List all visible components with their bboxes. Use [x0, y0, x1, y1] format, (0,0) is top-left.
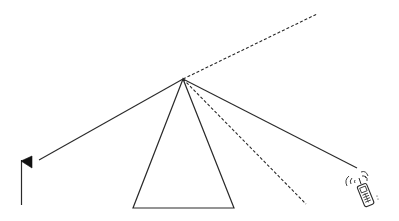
flag-icon [21, 156, 32, 205]
solid-line-to-phone [183, 79, 357, 168]
phone-antenna [359, 178, 361, 184]
diagram-canvas [0, 0, 399, 221]
signal-wave-left-inner-icon [355, 180, 356, 183]
phone-sparkle [376, 195, 377, 196]
signal-wave-left-icon [350, 178, 352, 184]
diagram-svg [0, 0, 399, 221]
signal-wave-left-outer-icon [346, 176, 349, 186]
solid-line-to-flag [39, 79, 183, 160]
dashed-line-upper [183, 14, 317, 79]
mobile-phone-icon [346, 172, 379, 208]
phone-sparkle [377, 198, 378, 199]
dashed-line-lower [183, 79, 306, 204]
flag-pennant [21, 156, 32, 168]
signal-wave-right-outer-icon [361, 172, 368, 177]
signal-wave-right-third-icon [365, 176, 367, 181]
